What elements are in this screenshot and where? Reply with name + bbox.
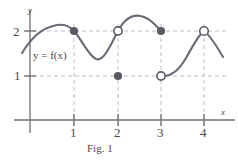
y-tick-label-2: 2	[13, 25, 20, 38]
x-tick-label-1: 1	[70, 126, 77, 139]
curve-branch-3	[161, 31, 223, 76]
point-open-3-1	[157, 72, 165, 80]
point-filled-3-2	[157, 27, 165, 35]
y-axis-label: y	[28, 6, 32, 15]
point-filled-2-1	[114, 72, 122, 80]
point-open-4-2	[200, 27, 209, 36]
y-tick-label-1: 1	[14, 69, 21, 82]
curve-branch-2	[118, 16, 161, 31]
x-tick-label-2: 2	[114, 126, 121, 139]
function-curve	[22, 16, 223, 76]
x-axis-label: x	[221, 108, 225, 117]
point-filled-1-2	[70, 27, 78, 35]
point-open-2-2	[114, 27, 122, 35]
function-annotation-label: y = f(x)	[33, 50, 67, 61]
figure-container: 2 1 1 2 3 4 y x y = f(x) Fig. 1	[0, 0, 238, 164]
tick-marks	[24, 31, 204, 126]
x-tick-label-3: 3	[157, 126, 164, 139]
x-tick-label-4: 4	[200, 126, 207, 139]
figure-caption: Fig. 1	[87, 143, 113, 154]
